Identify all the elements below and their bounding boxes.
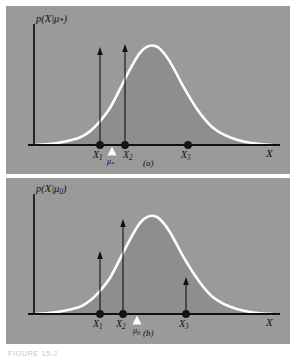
figure-root: p(X|μ*) X X1 X2 X3 μ* (a) — [0, 0, 304, 363]
y-axis-label-b: p(X|μ0) — [36, 184, 67, 196]
sample-point-x3-b — [182, 310, 190, 318]
distribution-area-b — [34, 215, 272, 314]
mean-marker-b — [132, 316, 141, 325]
point-label-x2-b: X2 — [116, 319, 126, 331]
y-axis-label-a: p(X|μ*) — [36, 14, 67, 26]
plot-canvas-a — [6, 6, 290, 174]
distribution-area-a — [34, 45, 272, 145]
x-axis-label-b: X — [266, 317, 273, 328]
point-label-x3-b: X3 — [179, 319, 189, 331]
figure-caption-strip: FIGURE 15-2 — [6, 346, 290, 363]
point-label-x1-b: X1 — [93, 319, 103, 331]
sample-point-x3-a — [184, 141, 192, 149]
sample-point-x1-a — [96, 141, 104, 149]
point-label-x2-a: X2 — [123, 150, 133, 162]
chart-panel-a: p(X|μ*) X X1 X2 X3 μ* (a) — [6, 6, 290, 174]
mean-label-b: μ0 — [133, 327, 140, 336]
sample-point-x2-b — [119, 310, 127, 318]
sample-point-x1-b — [96, 310, 104, 318]
panel-tag-a: (a) — [143, 159, 154, 168]
mean-label-a: μ* — [107, 158, 114, 167]
chart-panel-b: p(X|μ0) X X1 X2 X3 μ0 (b) — [6, 178, 290, 344]
sample-point-x2-a — [121, 141, 129, 149]
point-label-x1-a: X1 — [93, 150, 103, 162]
plot-canvas-b — [6, 178, 290, 344]
x-axis-label-a: X — [266, 148, 273, 159]
figure-caption: FIGURE 15-2 — [8, 349, 58, 358]
panel-tag-b: (b) — [143, 329, 154, 338]
point-label-x3-a: X3 — [181, 150, 191, 162]
mean-marker-a — [107, 147, 116, 156]
